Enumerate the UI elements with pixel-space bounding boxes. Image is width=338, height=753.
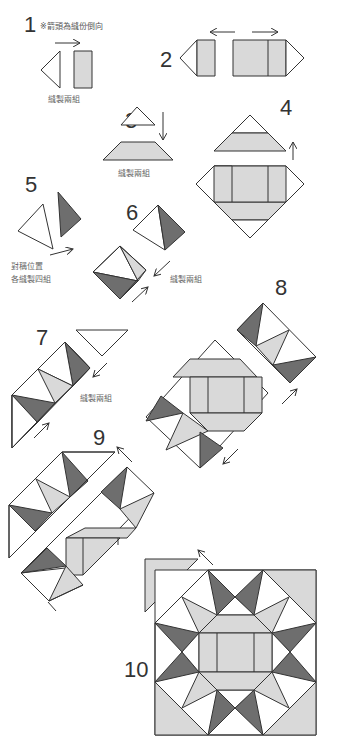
step-5: 5 對稱位置 各縫製四組	[11, 172, 81, 284]
step-number: 6	[126, 200, 138, 225]
step-caption-line2: 各縫製四組	[11, 274, 51, 284]
light-trapezoid	[214, 133, 286, 151]
step-number: 9	[93, 425, 105, 450]
light-trapezoid-bottom	[214, 202, 286, 220]
seam-line	[48, 602, 56, 611]
center-unit	[199, 633, 272, 672]
center-unit	[214, 166, 286, 202]
arrow-in-icon	[34, 423, 49, 438]
step-6: 6 縫製兩組	[93, 200, 202, 302]
step-1: 1 ※箭頭為縫份倒向 縫製兩組	[24, 12, 103, 104]
step-9: 9	[9, 425, 154, 611]
arrow-up-left-icon	[117, 447, 132, 462]
light-center	[66, 538, 120, 575]
white-triangle	[180, 40, 197, 76]
arrow-in-icon	[132, 287, 148, 302]
arrow-up-left-icon	[198, 550, 213, 565]
arrow-up-right-icon	[282, 389, 297, 404]
step-caption-line1: 對稱位置	[11, 261, 43, 271]
quilt-assembly-diagram: 1 ※箭頭為縫份倒向 縫製兩組 2 3 縫製兩組 4	[0, 0, 338, 753]
arrow-in-icon	[93, 363, 107, 377]
step-caption: 縫製兩組	[80, 393, 112, 403]
arrow-in-icon	[154, 261, 170, 276]
step-10: 10	[124, 550, 316, 735]
white-triangle	[286, 40, 304, 76]
step-8: 8	[146, 275, 316, 468]
step-caption: 縫製兩組	[48, 94, 80, 104]
step-number: 10	[124, 657, 148, 682]
light-trapezoid-top	[173, 359, 257, 377]
white-triangle	[41, 51, 60, 88]
step-number: 7	[36, 325, 48, 350]
white-triangle	[232, 115, 268, 133]
light-rectangle	[197, 40, 215, 76]
arrow-down-left-icon	[223, 449, 238, 464]
white-triangle	[18, 204, 53, 249]
step-caption: 縫製兩組	[170, 274, 202, 284]
step-number: 5	[25, 172, 37, 197]
step-number: 2	[160, 47, 172, 72]
light-rectangle	[74, 51, 92, 88]
arrow-right-icon	[50, 249, 73, 255]
white-triangle	[76, 330, 128, 356]
dark-triangle	[58, 192, 81, 237]
center-unit	[190, 377, 262, 413]
step-2: 2	[160, 32, 304, 76]
arrow-note: ※箭頭為縫份倒向	[40, 21, 103, 31]
light-trapezoid	[103, 142, 173, 160]
step-number: 1	[24, 12, 36, 37]
step-number: 4	[280, 95, 292, 120]
step-4: 4	[196, 95, 304, 238]
step-7: 7 縫製兩組	[12, 325, 128, 448]
step-number: 8	[275, 275, 287, 300]
step-caption: 縫製兩組	[118, 168, 150, 178]
light-center-rectangle	[233, 40, 286, 76]
